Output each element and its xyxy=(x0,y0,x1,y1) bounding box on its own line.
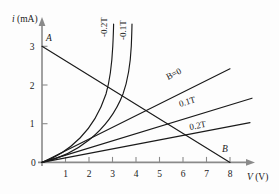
figure-container: i (mA) V (V) 0 3 2 1 1 2 3 4 5 6 7 8 A B… xyxy=(0,0,279,194)
x-tick-label-6: 6 xyxy=(181,169,186,179)
x-tick-label-8: 8 xyxy=(228,169,233,179)
x-tick-label-7: 7 xyxy=(204,169,209,179)
curve-label-minus-0-1T: -0.1T xyxy=(118,20,128,40)
y-tick-label-2: 2 xyxy=(30,81,35,91)
y-axis-arrow-icon xyxy=(39,17,46,26)
curve-label-minus-0-2T: -0.2T xyxy=(99,17,109,37)
origin-tick-label: 0 xyxy=(31,158,36,168)
x-tick-label-2: 2 xyxy=(87,169,92,179)
point-label-A: A xyxy=(45,33,52,43)
x-axis-title: V (V) xyxy=(247,172,268,183)
y-axis-title: i (mA) xyxy=(12,14,38,25)
y-tick-label-3: 3 xyxy=(30,42,35,52)
line-0-1T xyxy=(42,98,252,162)
x-tick-label-1: 1 xyxy=(63,169,68,179)
line-0-2T xyxy=(42,123,250,163)
x-axis-arrow-icon xyxy=(246,159,255,166)
x-tick-label-3: 3 xyxy=(110,169,115,179)
curve-label-0-2T: 0.2T xyxy=(188,119,207,132)
line-B-equals-0 xyxy=(42,69,230,163)
x-tick-label-4: 4 xyxy=(134,169,139,179)
curve-minus-0-2T xyxy=(42,24,114,162)
iv-characteristic-chart: i (mA) V (V) 0 3 2 1 1 2 3 4 5 6 7 8 A B… xyxy=(0,0,279,194)
y-tick-label-1: 1 xyxy=(30,119,35,129)
curve-label-B-equals-0: B=0 xyxy=(164,66,183,82)
curve-label-0-1T: 0.1T xyxy=(178,94,197,109)
point-label-B: B xyxy=(222,144,228,154)
x-tick-label-5: 5 xyxy=(157,169,162,179)
